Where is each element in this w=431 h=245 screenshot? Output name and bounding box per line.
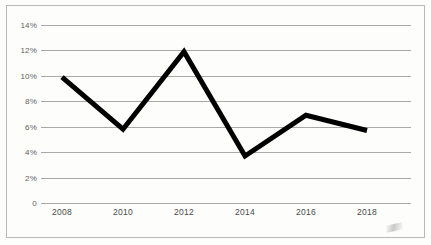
gridline (41, 203, 411, 204)
y-axis-tick-label: 8% (25, 97, 37, 106)
y-axis-tick-label: 2% (25, 173, 37, 182)
x-axis-tick-label: 2012 (174, 207, 194, 217)
series-polyline (62, 52, 367, 156)
y-axis-tick-label: 0 (32, 199, 37, 208)
chart-figure: 02%4%6%8%10%12%14% 200820102012201420162… (0, 0, 431, 245)
line-series (41, 25, 411, 203)
x-axis-tick-label: 2010 (113, 207, 133, 217)
y-axis-tick-label: 4% (25, 148, 37, 157)
x-axis-tick-label: 2018 (357, 207, 377, 217)
plot-area (41, 25, 411, 203)
x-axis-tick-label: 2016 (296, 207, 316, 217)
y-axis-tick-label: 10% (20, 71, 37, 80)
y-axis: 02%4%6%8%10%12%14% (8, 25, 37, 203)
x-axis: 200820102012201420162018 (41, 207, 411, 221)
x-axis-tick-label: 2008 (52, 207, 72, 217)
y-axis-tick-label: 6% (25, 122, 37, 131)
x-axis-tick-label: 2014 (235, 207, 255, 217)
y-axis-tick-label: 12% (20, 46, 37, 55)
y-axis-tick-label: 14% (20, 21, 37, 30)
